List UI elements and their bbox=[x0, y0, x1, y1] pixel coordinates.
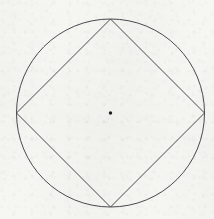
center-point-dot bbox=[109, 111, 112, 114]
geometry-figure bbox=[0, 0, 214, 219]
figure-canvas bbox=[0, 0, 214, 219]
